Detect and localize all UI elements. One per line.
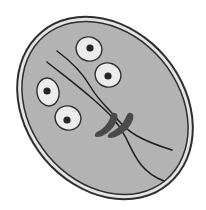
karyosome-1 [86, 44, 93, 51]
karyosome-4 [63, 116, 70, 123]
cyst-wall [0, 0, 206, 210]
karyosome-2 [104, 72, 111, 79]
karyosome-3 [43, 87, 50, 94]
cyst-diagram [0, 0, 206, 210]
cyst-illustration [0, 0, 206, 210]
